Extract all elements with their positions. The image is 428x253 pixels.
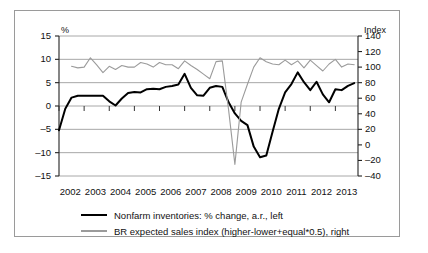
chart-legend: Nonfarm inventories: % change, a.r., lef…	[81, 207, 391, 239]
legend-swatch-nonfarm-inventories	[81, 209, 107, 221]
y2-axis-tick-label: 20	[365, 123, 389, 134]
y2-axis-tick-label: 40	[365, 108, 389, 119]
y2-axis-tick-label: 0	[365, 139, 389, 150]
y-axis-tick-label: –15	[29, 170, 51, 181]
plot-area	[15, 11, 401, 238]
y2-axis-tick-label: –20	[365, 154, 389, 165]
y-axis-tick-label: –10	[29, 147, 51, 158]
legend-swatch-br-expected-sales-index	[81, 225, 107, 237]
legend-item: Nonfarm inventories: % change, a.r., lef…	[81, 207, 391, 223]
y2-axis-tick-label: 140	[365, 30, 389, 41]
x-axis-tick-label: 2013	[332, 186, 362, 197]
legend-item: BR expected sales index (higher-lower+eq…	[81, 223, 391, 239]
legend-label-br-expected-sales-index: BR expected sales index (higher-lower+eq…	[114, 226, 349, 237]
chart-figure: % Index 151050–5–10–15140120100806040200…	[14, 10, 400, 237]
chart-canvas	[15, 11, 401, 238]
y2-axis-tick-label: 100	[365, 61, 389, 72]
y-axis-tick-label: 15	[29, 30, 51, 41]
y2-axis-tick-label: –40	[365, 170, 389, 181]
series-line	[59, 72, 354, 157]
series-line	[72, 58, 355, 165]
y-axis-tick-label: 0	[29, 100, 51, 111]
y2-axis-tick-label: 80	[365, 77, 389, 88]
y2-axis-tick-label: 60	[365, 92, 389, 103]
y2-axis-tick-label: 120	[365, 46, 389, 57]
legend-label-nonfarm-inventories: Nonfarm inventories: % change, a.r., lef…	[114, 210, 283, 221]
y-axis-tick-label: 10	[29, 53, 51, 64]
y-axis-tick-label: –5	[29, 123, 51, 134]
y-axis-tick-label: 5	[29, 77, 51, 88]
